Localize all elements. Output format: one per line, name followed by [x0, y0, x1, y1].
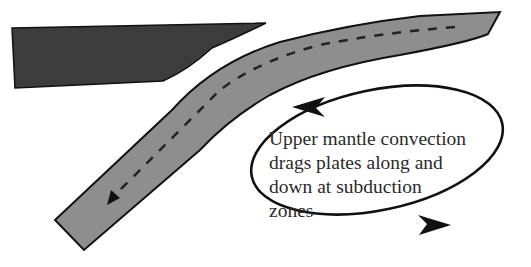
- diagram-caption: Upper mantle convection drags plates alo…: [269, 127, 499, 223]
- caption-line: down at subduction: [269, 175, 499, 199]
- caption-line: drags plates along and: [269, 151, 499, 175]
- convection-arrowhead-top-icon: [292, 97, 325, 117]
- caption-line: zones: [269, 199, 499, 223]
- caption-line: Upper mantle convection: [269, 127, 499, 151]
